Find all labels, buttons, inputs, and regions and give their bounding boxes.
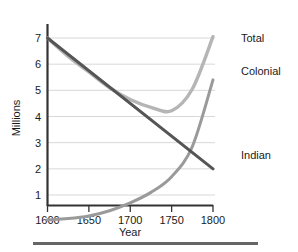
y-tick-label-4: 4 xyxy=(35,111,41,123)
y-tick-label-5: 5 xyxy=(35,84,41,96)
chart-canvas: 16001650170017501800 1234567 Millions Ye… xyxy=(0,0,298,252)
series-label-total: Total xyxy=(241,32,264,44)
y-tick-label-3: 3 xyxy=(35,137,41,149)
x-tick-label-1750: 1750 xyxy=(159,214,183,226)
series-label-indian: Indian xyxy=(241,149,271,161)
y-tick-label-6: 6 xyxy=(35,58,41,70)
series-label-colonial: Colonial xyxy=(241,65,281,77)
y-axis-title: Millions xyxy=(10,99,22,136)
series-line-total xyxy=(48,37,214,112)
x-axis-title: Year xyxy=(119,226,142,238)
x-tick-label-1800: 1800 xyxy=(201,214,225,226)
population-line-chart: 16001650170017501800 1234567 Millions Ye… xyxy=(0,0,298,252)
y-tick-label-1: 1 xyxy=(35,189,41,201)
x-tick-label-1700: 1700 xyxy=(118,214,142,226)
y-tick-label-7: 7 xyxy=(35,32,41,44)
y-tick-label-2: 2 xyxy=(35,163,41,175)
y-axis-tick-labels: 1234567 xyxy=(35,32,41,201)
series-line-indian xyxy=(48,38,214,169)
